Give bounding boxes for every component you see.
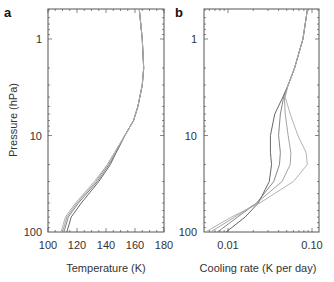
x-tick-label: 120 [68, 239, 86, 251]
y-tick-label: 1 [36, 33, 42, 45]
panel-a-ticks [48, 9, 164, 232]
y-axis-label: Pressure (hPa) [7, 83, 19, 157]
y-tick-label: 10 [30, 130, 42, 142]
panel-a: 1 10 100 100 120 140 160 180 Temperature… [7, 9, 173, 274]
y-tick-label: 10 [185, 130, 197, 142]
x-axis-label: Temperature (K) [66, 262, 145, 274]
panel-b-curves [206, 10, 308, 232]
y-tick-label: 100 [24, 226, 42, 238]
y-tick-label: 1 [191, 33, 197, 45]
panel-b-letter: b [175, 5, 183, 20]
x-tick-label: 180 [155, 239, 173, 251]
x-tick-label: 140 [97, 239, 115, 251]
temperature-curve [61, 10, 144, 232]
y-tick-label: 100 [179, 226, 197, 238]
temperature-curve [64, 10, 144, 232]
x-tick-label: 0.01 [217, 239, 238, 251]
x-tick-label: 160 [126, 239, 144, 251]
cooling-rate-curve [206, 10, 308, 232]
panel-b: 1 10 100 0.01 0.10 Cooling rate (K per d… [179, 9, 323, 274]
x-tick-label: 100 [39, 239, 57, 251]
panel-a-curves [61, 10, 144, 232]
panel-a-letter: a [4, 5, 12, 20]
temperature-curve [63, 10, 144, 232]
x-axis-label: Cooling rate (K per day) [200, 262, 317, 274]
figure: a b 1 10 100 100 120 140 160 180 Tempera… [0, 0, 334, 282]
panel-a-frame [48, 9, 164, 232]
x-tick-label: 0.10 [301, 239, 322, 251]
temperature-curve [67, 10, 144, 232]
